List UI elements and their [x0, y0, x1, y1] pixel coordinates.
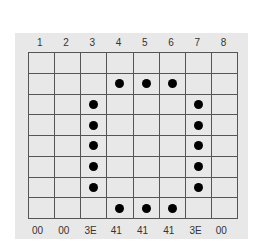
- grid-cell: [29, 95, 55, 116]
- grid-cell: [134, 115, 160, 136]
- grid-cell: [107, 198, 133, 219]
- grid-cell: [81, 115, 107, 136]
- dot-icon: [142, 204, 151, 213]
- grid-cell: [186, 178, 212, 199]
- grid-cell: [134, 157, 160, 178]
- grid-cell: [107, 74, 133, 95]
- dot-icon: [142, 79, 151, 88]
- grid-cell: [134, 198, 160, 219]
- column-label: 1: [28, 36, 54, 50]
- grid-cell: [160, 74, 186, 95]
- hex-value: 3E: [81, 224, 107, 238]
- grid-cell: [134, 53, 160, 74]
- dot-icon: [168, 204, 177, 213]
- grid-cell: [160, 53, 186, 74]
- hex-value: 00: [212, 224, 238, 238]
- grid-cell: [160, 157, 186, 178]
- dot-icon: [168, 79, 177, 88]
- dot-icon: [194, 162, 203, 171]
- column-labels: 1 2 3 4 5 6 7 8: [28, 36, 238, 50]
- grid-cell: [134, 136, 160, 157]
- grid-cell: [81, 157, 107, 178]
- dot-icon: [89, 100, 98, 109]
- grid-cell: [107, 115, 133, 136]
- dot-icon: [89, 162, 98, 171]
- grid-cell: [107, 157, 133, 178]
- column-label: 5: [133, 36, 159, 50]
- dot-icon: [89, 141, 98, 150]
- column-label: 4: [107, 36, 133, 50]
- column-label: 6: [159, 36, 185, 50]
- dot-icon: [89, 121, 98, 130]
- grid-cell: [186, 136, 212, 157]
- dot-icon: [89, 183, 98, 192]
- grid-cell: [81, 53, 107, 74]
- grid-cell: [212, 178, 238, 199]
- grid-cell: [29, 157, 55, 178]
- hex-value: 41: [107, 224, 133, 238]
- hex-value: 3E: [186, 224, 212, 238]
- grid-cell: [134, 178, 160, 199]
- column-label: 7: [186, 36, 212, 50]
- grid-cell: [186, 53, 212, 74]
- grid-cell: [29, 178, 55, 199]
- grid-cell: [81, 136, 107, 157]
- grid-cell: [186, 95, 212, 116]
- grid-cell: [55, 178, 81, 199]
- hex-value-labels: 00 00 3E 41 41 41 3E 00: [28, 224, 238, 238]
- dot-icon: [194, 100, 203, 109]
- column-label: 3: [81, 36, 107, 50]
- grid-cell: [55, 74, 81, 95]
- grid-cell: [160, 198, 186, 219]
- dot-icon: [194, 141, 203, 150]
- grid-cell: [160, 178, 186, 199]
- grid-cell: [81, 198, 107, 219]
- grid-cell: [186, 198, 212, 219]
- grid-cell: [186, 115, 212, 136]
- grid-cell: [212, 198, 238, 219]
- grid-cell: [55, 198, 81, 219]
- dot-icon: [194, 183, 203, 192]
- grid-cell: [160, 136, 186, 157]
- hex-value: 41: [159, 224, 185, 238]
- grid-cell: [212, 95, 238, 116]
- grid-cell: [29, 53, 55, 74]
- grid-cell: [212, 53, 238, 74]
- grid-cell: [55, 136, 81, 157]
- grid-cell: [29, 136, 55, 157]
- grid-cell: [107, 136, 133, 157]
- grid-cell: [81, 178, 107, 199]
- grid-cell: [29, 115, 55, 136]
- grid-cell: [212, 115, 238, 136]
- grid-cell: [107, 95, 133, 116]
- column-label: 2: [54, 36, 80, 50]
- grid-cell: [134, 95, 160, 116]
- grid-cell: [212, 157, 238, 178]
- grid-cell: [134, 74, 160, 95]
- dot-icon: [115, 79, 124, 88]
- grid-cell: [55, 157, 81, 178]
- grid-cell: [107, 53, 133, 74]
- grid-cell: [160, 115, 186, 136]
- dot-matrix-grid: [28, 52, 238, 219]
- hex-value: 00: [54, 224, 80, 238]
- dot-icon: [194, 121, 203, 130]
- grid-cell: [212, 74, 238, 95]
- grid-cell: [81, 95, 107, 116]
- grid-cell: [55, 115, 81, 136]
- grid-cell: [55, 95, 81, 116]
- dot-icon: [115, 204, 124, 213]
- grid-cell: [29, 74, 55, 95]
- grid-cell: [29, 198, 55, 219]
- hex-value: 41: [133, 224, 159, 238]
- column-label: 8: [212, 36, 238, 50]
- grid-cell: [186, 157, 212, 178]
- grid-cell: [55, 53, 81, 74]
- grid-cell: [81, 74, 107, 95]
- grid-cell: [107, 178, 133, 199]
- grid-cell: [212, 136, 238, 157]
- grid-cell: [160, 95, 186, 116]
- hex-value: 00: [28, 224, 54, 238]
- grid-cell: [186, 74, 212, 95]
